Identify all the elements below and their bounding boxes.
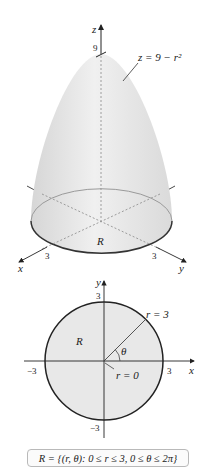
z-tick-label: 9 [93, 43, 98, 53]
y-pos-tick-label: 3 [96, 291, 101, 301]
x-axis-label-2d: x [188, 364, 194, 376]
region-definition-caption: R = {(r, θ): 0 ≤ r ≤ 3, 0 ≤ θ ≤ 2π} [27, 449, 189, 467]
x-axis-label-3d: x [17, 262, 23, 274]
y-axis [156, 247, 186, 262]
theta-label: θ [121, 345, 127, 357]
radius-label: r = 3 [146, 308, 169, 320]
paraboloid-surface [31, 54, 172, 253]
region-label-2d: R [75, 335, 83, 347]
y-neg-tick-label: −3 [90, 423, 100, 433]
origin-label: r = 0 [116, 369, 139, 381]
x-neg-tick-label: −3 [27, 366, 37, 376]
polar-region-figure: y 3 −3 −3 3 x R r = 3 r = 0 θ [24, 276, 194, 438]
y-axis-label-3d: y [178, 262, 184, 274]
region-label-3d: R [96, 235, 104, 247]
caption-text: R = {(r, θ): 0 ≤ r ≤ 3, 0 ≤ θ ≤ 2π} [39, 453, 177, 464]
x-axis [19, 247, 47, 262]
surface-equation-label: z = 9 − r² [137, 51, 182, 63]
paraboloid-figure: z 9 z = 9 − r² R 3 3 x y [17, 23, 186, 274]
diagram-canvas: z 9 z = 9 − r² R 3 3 x y y 3 −3 −3 3 x R… [0, 0, 213, 472]
z-axis-label: z [91, 23, 97, 35]
y-tick-label-3d: 3 [152, 251, 157, 261]
x-pos-tick-label: 3 [167, 366, 172, 376]
x-tick-label-3d: 3 [45, 251, 50, 261]
y-axis-label-2d: y [95, 276, 101, 288]
